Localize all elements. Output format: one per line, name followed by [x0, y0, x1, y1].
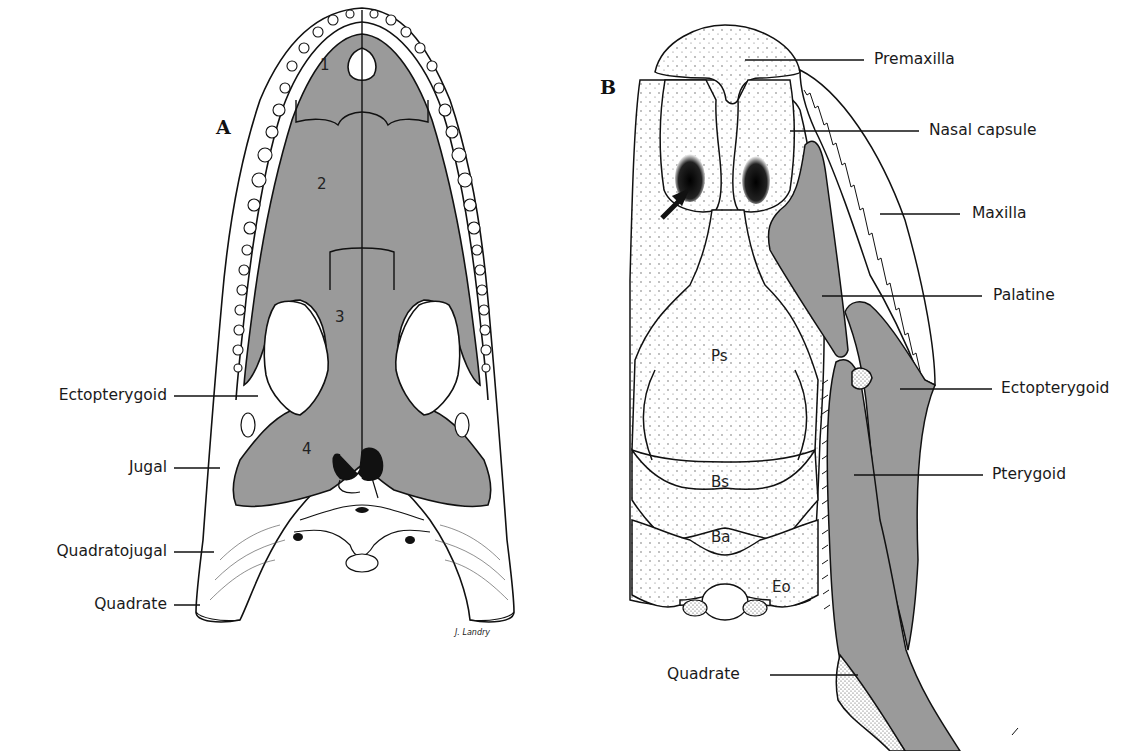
bone-number-1: 1 [320, 56, 330, 74]
label-jugal: Jugal [22, 460, 167, 476]
label-ectopterygoid-a: Ectopterygoid [22, 388, 167, 404]
label-palatine: Palatine [993, 288, 1055, 304]
bone-number-3: 3 [335, 308, 345, 326]
skull-diagram-canvas [0, 0, 1133, 751]
label-ps: Ps [711, 347, 728, 365]
label-nasal-capsule: Nasal capsule [929, 123, 1037, 139]
bone-number-2: 2 [317, 175, 327, 193]
panel-label-b: B [600, 76, 616, 98]
label-premaxilla: Premaxilla [874, 52, 955, 68]
label-quadratojugal: Quadratojugal [10, 544, 167, 560]
artist-signature: J. Landry [455, 628, 490, 637]
label-ba: Ba [711, 528, 730, 546]
label-quadrate-a: Quadrate [22, 597, 167, 613]
label-ectopterygoid-b: Ectopterygoid [1001, 381, 1109, 397]
naris-right [742, 156, 770, 204]
skull-a-dorsal-palatal-view [196, 8, 514, 622]
label-bs: Bs [711, 473, 729, 491]
label-quadrate-b: Quadrate [667, 667, 740, 683]
label-maxilla: Maxilla [972, 206, 1026, 222]
label-pterygoid: Pterygoid [992, 467, 1066, 483]
bone-number-4: 4 [302, 440, 312, 458]
label-eo: Eo [772, 578, 791, 596]
occipital-condyle [702, 584, 748, 620]
panel-label-a: A [216, 116, 231, 138]
